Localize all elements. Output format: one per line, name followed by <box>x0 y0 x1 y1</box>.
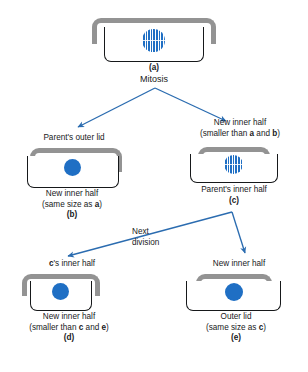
cell-d-id-label: (d) <box>47 333 91 344</box>
cell-b-size-note-suffix: ) <box>99 200 102 209</box>
cell-b-id-label: (b) <box>50 210 94 221</box>
cell-d-nucleus <box>52 283 69 300</box>
cell-b <box>30 148 122 188</box>
cell-c-size-note-suffix: ) <box>277 129 280 138</box>
mitosis-lid-diagram: (a) Mitosis Parent's outer lid New inner… <box>0 0 308 372</box>
cell-b-bottom-label: New inner half (same size as a) <box>8 189 136 210</box>
cell-d-top-label-suffix: 's inner half <box>53 259 95 268</box>
cell-a-id-label: (a) <box>132 63 176 74</box>
arrow-a-to-b <box>78 88 155 127</box>
mitosis-label: Mitosis <box>124 74 184 85</box>
cell-a <box>92 18 216 62</box>
cell-d-bottom-label: New inner half (smaller than c and e) <box>5 312 133 333</box>
cell-b-top-label: Parent's outer lid <box>10 133 138 144</box>
arrow-a-to-c <box>155 88 226 121</box>
cell-c-nucleus <box>224 155 243 174</box>
cell-e-id-label: (e) <box>214 333 258 344</box>
cell-d-size-note-mid: and <box>83 323 101 332</box>
cell-b-nucleus <box>64 159 81 176</box>
arrow-c-to-e <box>232 212 245 253</box>
cell-e-bottom-label: Outer lid (same size as c) <box>172 312 300 333</box>
cell-a-nucleus <box>142 29 165 52</box>
cell-b-bottom-label-line1: New inner half <box>46 189 98 198</box>
cell-c-top-label: New inner half (smaller than a and b) <box>176 118 304 139</box>
next-division-line1: Next <box>132 227 149 236</box>
cell-c-top-label-line1: New inner half <box>214 118 266 127</box>
cell-e-nucleus <box>225 283 243 301</box>
cell-e-size-note-suffix: ) <box>263 323 266 332</box>
next-division-line2: division <box>132 238 159 247</box>
cell-e-size-note-prefix: (same size as <box>206 323 259 332</box>
cell-e <box>196 274 272 311</box>
cell-d-top-label: c's inner half <box>8 259 136 270</box>
cell-d-size-note-prefix: (smaller than <box>29 323 79 332</box>
cell-e-bottom-label-line1: Outer lid <box>221 312 252 321</box>
cell-d <box>22 274 100 311</box>
cell-b-size-note-prefix: (same size as <box>42 200 95 209</box>
cell-d-size-note-suffix: ) <box>106 323 109 332</box>
cell-c-size-note-prefix: (smaller than <box>200 129 250 138</box>
cell-c-id-label: (c) <box>212 196 256 207</box>
cell-e-top-label: New inner half <box>175 259 303 270</box>
cell-c <box>198 147 270 183</box>
cell-d-bottom-label-line1: New inner half <box>43 312 95 321</box>
cell-c-bottom-label: Parent's inner half <box>170 185 298 196</box>
next-division-annotation: Next division <box>132 227 192 248</box>
cell-c-size-note-mid: and <box>254 129 272 138</box>
